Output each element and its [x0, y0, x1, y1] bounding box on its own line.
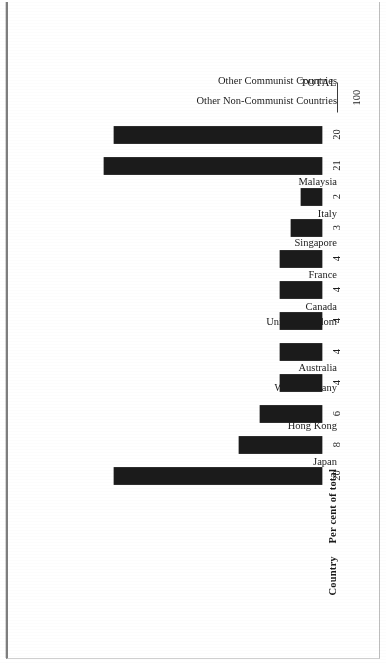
bar	[280, 343, 322, 360]
scanned-page: Country Per cent of total 20Japan8Hong K…	[0, 0, 386, 663]
total-label: TOTAL	[337, 77, 348, 117]
rotated-chart-container: Country Per cent of total 20Japan8Hong K…	[0, 0, 386, 663]
bar	[104, 157, 322, 174]
bar-column: 20Other Communist Countries	[0, 114, 386, 154]
bar	[114, 467, 322, 484]
bar-category-label: Other Communist Countries	[337, 114, 348, 154]
total-value: 100	[351, 77, 362, 117]
bar-category-text: Other Non-Communist Countries	[196, 95, 337, 106]
total-label-text: TOTAL	[301, 77, 337, 88]
bar	[291, 219, 322, 236]
bar	[280, 250, 322, 267]
bar	[114, 126, 322, 143]
chart-sheet: Country Per cent of total 20Japan8Hong K…	[0, 0, 386, 663]
bar-chart-plot: Country Per cent of total 20Japan8Hong K…	[0, 0, 386, 663]
header-country: Country	[327, 556, 338, 595]
bar	[280, 281, 322, 298]
bar	[239, 436, 322, 453]
bar	[280, 374, 322, 391]
bar	[260, 405, 322, 422]
bar	[301, 188, 322, 205]
bar	[280, 312, 322, 329]
